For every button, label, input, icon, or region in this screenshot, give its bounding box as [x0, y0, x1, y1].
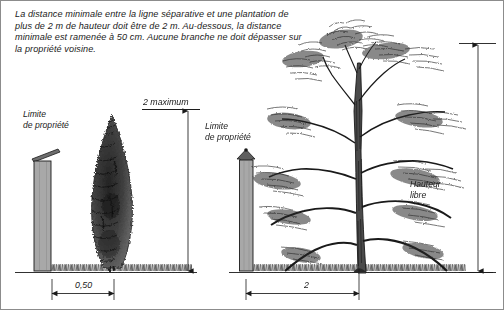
distance-dimension-label-right: 2	[304, 280, 309, 291]
height-dimension-label-left: 2 maximum	[143, 97, 188, 108]
pine-tree	[251, 20, 466, 273]
distance-dimension-right	[246, 269, 359, 300]
distance-dimension-label-left: 0,50	[75, 280, 92, 291]
property-limit-label-right: Limite de propriété	[205, 121, 251, 142]
conifer-tree	[87, 115, 132, 272]
clearance-label-right: Hauteur libre	[410, 179, 441, 200]
property-limit-label-left: Limite de propriété	[23, 109, 69, 130]
figure-drawing	[1, 1, 504, 310]
property-limit-post-left	[32, 149, 60, 271]
regulation-figure: La distance minimale entre la ligne sépa…	[0, 0, 504, 310]
